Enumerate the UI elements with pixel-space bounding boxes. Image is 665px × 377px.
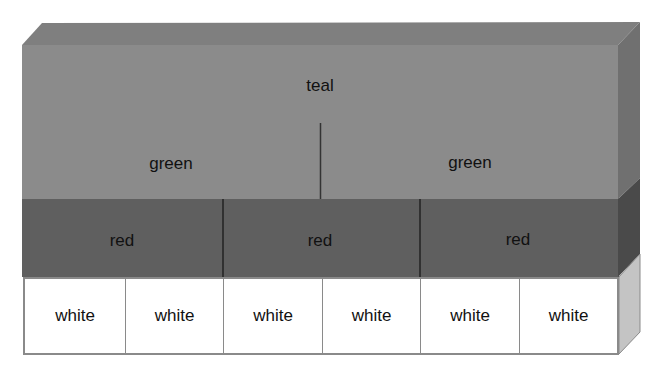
white-cell-5: white	[420, 277, 520, 355]
white-cell-3: white	[223, 277, 323, 355]
top-face	[22, 22, 640, 45]
teal-label: teal	[306, 77, 333, 94]
white-cell-4: white	[322, 277, 421, 355]
white-label: white	[352, 306, 392, 326]
red-label-2: red	[308, 232, 333, 249]
white-label: white	[253, 306, 293, 326]
red-label-1: red	[110, 232, 135, 249]
red-label-3: red	[506, 231, 531, 248]
green-label-right: green	[448, 154, 491, 171]
white-cell-1: white	[23, 277, 126, 355]
white-label: white	[155, 306, 195, 326]
white-label: white	[450, 306, 490, 326]
white-cell-2: white	[125, 277, 224, 355]
white-label: white	[549, 306, 589, 326]
white-cell-6: white	[519, 277, 619, 355]
teal-side-face	[618, 22, 640, 199]
green-label-left: green	[149, 155, 192, 172]
block-diagram: teal green green red red red white white…	[0, 0, 665, 377]
white-label: white	[55, 306, 95, 326]
